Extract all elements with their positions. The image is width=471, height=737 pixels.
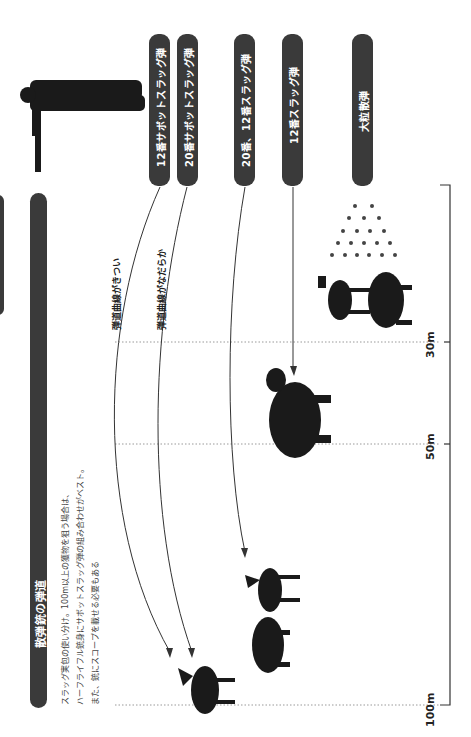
description-line: スラッグ実包の使い分け。100m以上の獲物を狙う場合は、	[58, 490, 73, 705]
distance-axis	[440, 185, 450, 705]
distance-50m: 50m	[424, 433, 437, 460]
animal-silhouettes	[178, 272, 412, 714]
ammo-label-12-sabot: 12番サボットスラッグ弾	[149, 34, 170, 186]
description-line: ハーフライフル銃身にサボットスラッグ弾の組み合わせがベスト。	[73, 465, 88, 705]
ammo-label-20-12-slug: 20番、12番スラッグ弾	[234, 34, 255, 186]
edge-pill	[0, 195, 4, 315]
ammo-label-20-sabot: 20番サボットスラッグ弾	[177, 34, 198, 186]
hunter-silhouette	[20, 80, 145, 172]
annotation-gentle: 弾道曲線がなだらか	[155, 249, 168, 330]
ammo-label-buckshot: 大粒散弾	[352, 34, 373, 186]
distance-30m: 30m	[424, 331, 437, 358]
distance-100m: 100m	[424, 693, 437, 727]
description-line: また、銃にスコープを載せる必要もある	[88, 561, 103, 705]
trajectory-20-12-slug	[230, 187, 245, 552]
page-title: 散弾銃の弾道	[32, 579, 48, 648]
annotation-steep: 弾道曲線がきつい	[110, 258, 123, 330]
ammo-label-12-slug: 12番スラッグ弾	[282, 34, 303, 186]
title-pill: 散弾銃の弾道	[30, 193, 47, 708]
